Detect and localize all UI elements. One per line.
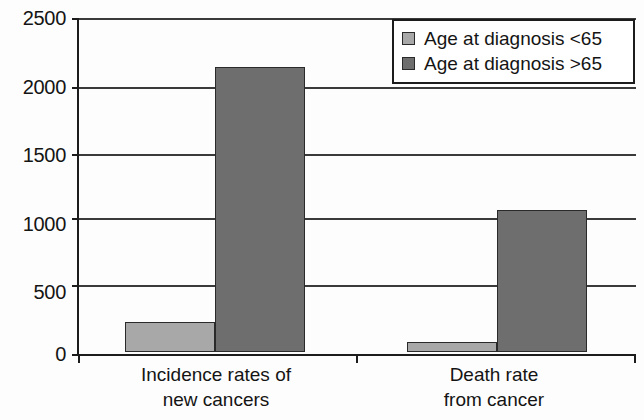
bar-death-over65 — [497, 210, 587, 352]
y-tick-label-0: 0 — [4, 344, 66, 364]
y-tick-mark-1000 — [72, 218, 79, 220]
x-category-death-line1: Death rate — [355, 362, 633, 387]
bar-chart: 2500 2000 1500 1000 500 0 Incid — [0, 0, 644, 420]
y-tick-mark-500 — [72, 285, 79, 287]
legend-item-under65: Age at diagnosis <65 — [402, 26, 625, 51]
x-tick-mark-right — [634, 354, 636, 363]
x-category-incidence-line1: Incidence rates of — [77, 362, 355, 387]
y-tick-label-500: 500 — [4, 282, 66, 302]
x-category-incidence-line2: new cancers — [77, 387, 355, 412]
x-category-label-death: Death rate from cancer — [355, 362, 633, 412]
y-tick-label-1500: 1500 — [4, 145, 66, 165]
legend-label-over65: Age at diagnosis >65 — [424, 53, 602, 74]
bar-incidence-over65 — [215, 67, 305, 352]
bar-death-under65 — [407, 342, 497, 352]
y-tick-mark-2500 — [72, 18, 79, 20]
legend-label-under65: Age at diagnosis <65 — [424, 28, 602, 49]
x-category-label-incidence: Incidence rates of new cancers — [77, 362, 355, 412]
y-tick-mark-1500 — [72, 154, 79, 156]
gridline-2000 — [79, 87, 636, 89]
x-category-death-line2: from cancer — [355, 387, 633, 412]
y-tick-label-2000: 2000 — [4, 77, 66, 97]
y-axis: 2500 2000 1500 1000 500 0 — [0, 0, 66, 420]
legend-swatch-icon-over65 — [402, 57, 415, 70]
legend-swatch-icon-under65 — [402, 32, 415, 45]
legend-item-over65: Age at diagnosis >65 — [402, 51, 625, 76]
y-tick-label-2500: 2500 — [4, 8, 66, 28]
gridline-1500 — [79, 154, 636, 156]
y-tick-label-1000: 1000 — [4, 214, 66, 234]
legend: Age at diagnosis <65 Age at diagnosis >6… — [392, 19, 635, 84]
y-tick-mark-2000 — [72, 87, 79, 89]
bar-incidence-under65 — [125, 322, 215, 352]
